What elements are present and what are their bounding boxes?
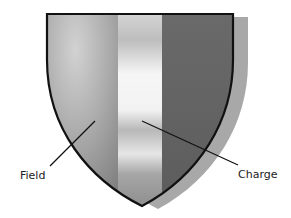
- charge-pale-stripe: [118, 10, 163, 210]
- shield-diagram: Field Charge: [0, 0, 291, 218]
- field-label: Field: [20, 169, 45, 182]
- shield-body: [40, 10, 242, 210]
- charge-label: Charge: [238, 168, 278, 181]
- field-left-region: [40, 10, 119, 210]
